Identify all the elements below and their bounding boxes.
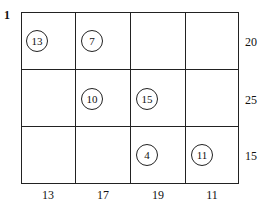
- grid-column-divider: [130, 13, 131, 183]
- circled-value-r2c3: 15: [136, 88, 158, 110]
- grid-column-divider: [75, 13, 76, 183]
- circled-value-r1c1: 13: [26, 30, 48, 52]
- circled-value-r1c2: 7: [81, 30, 103, 52]
- row-label-1: 20: [245, 35, 257, 50]
- circled-value-r3c3: 4: [136, 144, 158, 166]
- allocation-grid: 13 7 10 15 4 11: [21, 12, 239, 184]
- circled-value-r2c2: 10: [81, 88, 103, 110]
- grid-row-divider: [22, 126, 238, 127]
- column-label-2: 17: [88, 188, 118, 203]
- column-label-1: 13: [33, 188, 63, 203]
- grid-column-divider: [185, 13, 186, 183]
- column-label-4: 11: [197, 188, 227, 203]
- row-label-3: 15: [245, 149, 257, 164]
- circled-value-r3c4: 11: [191, 144, 213, 166]
- problem-number: 1: [4, 9, 10, 21]
- column-label-3: 19: [143, 188, 173, 203]
- grid-row-divider: [22, 69, 238, 70]
- row-label-2: 25: [245, 93, 257, 108]
